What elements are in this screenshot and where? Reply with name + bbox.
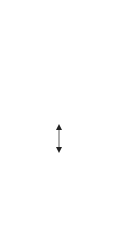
double-headed-arrow-icon (0, 0, 119, 240)
diagram-figure (0, 0, 119, 240)
